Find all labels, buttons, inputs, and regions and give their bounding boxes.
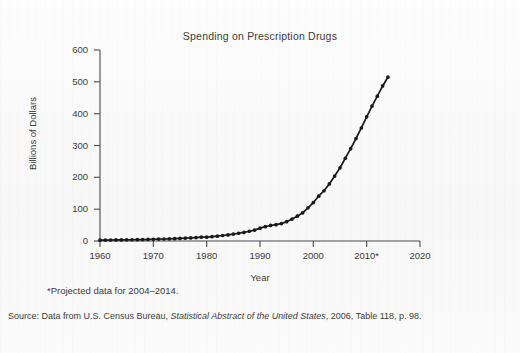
source-publication-title: Statistical Abstract of the United State…	[171, 311, 326, 321]
data-point	[194, 236, 198, 240]
data-point	[178, 237, 182, 241]
data-point	[103, 238, 107, 242]
x-axis-label: Year	[100, 272, 420, 283]
x-tick-label-2000: 2000	[293, 250, 333, 261]
series-markers-prescription-drug-spending	[98, 75, 390, 242]
data-point	[205, 235, 209, 239]
y-axis-ticks	[94, 50, 100, 241]
data-point	[167, 237, 171, 241]
x-tick-label-1970: 1970	[133, 250, 173, 261]
data-point	[183, 236, 187, 240]
data-point	[375, 94, 379, 98]
data-point	[343, 156, 347, 160]
y-tick-label-300: 300	[54, 140, 88, 151]
data-point	[269, 224, 273, 228]
data-point	[333, 174, 337, 178]
y-tick-label-500: 500	[54, 76, 88, 87]
y-axis-label: Billions of Dollars	[27, 74, 38, 194]
data-point	[98, 238, 102, 242]
data-point	[199, 235, 203, 239]
data-point	[215, 234, 219, 238]
data-point	[301, 211, 305, 215]
data-point	[359, 126, 363, 130]
data-point	[381, 84, 385, 88]
data-point	[285, 220, 289, 224]
data-point	[306, 206, 310, 210]
data-point	[258, 226, 262, 230]
data-point	[226, 233, 230, 237]
data-point	[253, 228, 257, 232]
chart-figure: Spending on Prescription Drugs	[0, 0, 520, 353]
data-point	[349, 147, 353, 151]
data-point	[221, 234, 225, 238]
data-point	[146, 238, 150, 242]
x-tick-label-2020: 2020	[400, 250, 440, 261]
data-point	[354, 137, 358, 141]
data-point	[311, 201, 315, 205]
data-point	[151, 237, 155, 241]
data-point	[189, 236, 193, 240]
data-point	[231, 232, 235, 236]
data-point	[365, 115, 369, 119]
data-point	[279, 222, 283, 226]
source-prefix: Source: Data from U.S. Census Bureau,	[8, 311, 171, 321]
data-point	[130, 238, 134, 242]
data-point	[338, 166, 342, 170]
data-point	[119, 238, 123, 242]
data-point	[247, 229, 251, 233]
data-point	[162, 237, 166, 241]
data-point	[242, 231, 246, 235]
axis-lines	[100, 50, 420, 241]
data-point	[317, 194, 321, 198]
x-tick-label-1990: 1990	[240, 250, 280, 261]
x-axis-ticks	[100, 241, 420, 247]
data-point	[263, 225, 267, 229]
projection-footnote: *Projected data for 2004–2014.	[47, 285, 179, 296]
y-tick-label-200: 200	[54, 171, 88, 182]
data-point	[290, 217, 294, 221]
data-point	[109, 238, 113, 242]
data-point	[295, 214, 299, 218]
y-tick-label-0: 0	[54, 235, 88, 246]
x-tick-label-2010: 2010*	[347, 250, 387, 261]
data-point	[125, 238, 129, 242]
data-point	[237, 231, 241, 235]
data-point	[173, 237, 177, 241]
x-tick-label-1980: 1980	[187, 250, 227, 261]
data-point	[135, 238, 139, 242]
data-point	[386, 75, 390, 79]
y-tick-label-400: 400	[54, 108, 88, 119]
data-point	[141, 238, 145, 242]
data-point	[370, 104, 374, 108]
y-tick-label-100: 100	[54, 203, 88, 214]
data-point	[322, 189, 326, 193]
source-note: Source: Data from U.S. Census Bureau, St…	[8, 311, 422, 321]
data-point	[274, 223, 278, 227]
data-point	[114, 238, 118, 242]
data-point	[327, 182, 331, 186]
data-point	[157, 237, 161, 241]
source-suffix: , 2006, Table 118, p. 98.	[326, 311, 422, 321]
data-point	[210, 235, 214, 239]
x-tick-label-1960: 1960	[80, 250, 120, 261]
y-tick-label-600: 600	[54, 44, 88, 55]
